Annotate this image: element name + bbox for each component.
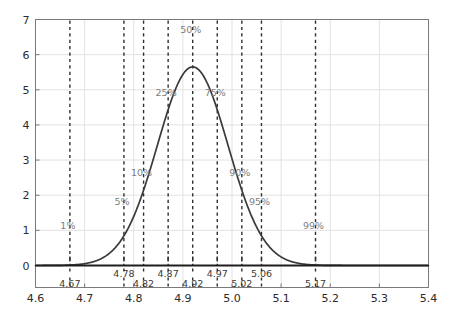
x-tick-label: 4.7 <box>76 292 94 305</box>
percentile-annotation-25pct: 25% <box>156 87 177 98</box>
x-tick-label: 5.3 <box>371 292 389 305</box>
y-tick-label: 7 <box>23 14 30 27</box>
percentile-value-label-90pct: 5.02 <box>231 278 252 289</box>
y-tick-label: 4 <box>23 119 30 132</box>
x-tick-label: 5.0 <box>223 292 241 305</box>
percentile-annotation-5pct: 5% <box>114 196 129 207</box>
y-tick-label: 0 <box>23 260 30 273</box>
percentile-value-label-25pct: 4.87 <box>158 268 179 279</box>
x-tick-label: 5.4 <box>420 292 438 305</box>
y-tick-label: 1 <box>23 224 30 237</box>
chart-background <box>0 0 460 317</box>
y-tick-label: 5 <box>23 84 30 97</box>
percentile-value-label-75pct: 4.97 <box>207 268 228 279</box>
x-tick-label: 5.2 <box>322 292 340 305</box>
percentile-annotation-10pct: 10% <box>131 167 152 178</box>
y-tick-label: 3 <box>23 154 30 167</box>
percentile-value-label-50pct: 4.92 <box>182 278 203 289</box>
percentile-annotation-75pct: 75% <box>205 87 226 98</box>
x-tick-label: 4.9 <box>174 292 192 305</box>
percentile-annotation-99pct: 99% <box>303 220 324 231</box>
chart-container: 1%5%10%25%50%75%90%95%99% 4.674.784.824.… <box>0 0 460 317</box>
percentile-annotation-1pct: 1% <box>60 220 75 231</box>
x-tick-label: 4.8 <box>125 292 143 305</box>
distribution-chart: 1%5%10%25%50%75%90%95%99% 4.674.784.824.… <box>0 0 460 317</box>
percentile-value-label-10pct: 4.82 <box>133 278 154 289</box>
percentile-value-label-95pct: 5.06 <box>251 268 272 279</box>
x-tick-label: 5.1 <box>272 292 290 305</box>
percentile-value-label-1pct: 4.67 <box>59 278 80 289</box>
percentile-value-label-5pct: 4.78 <box>113 268 134 279</box>
y-tick-label: 2 <box>23 189 30 202</box>
y-tick-label: 6 <box>23 49 30 62</box>
x-axis-tick-labels: 4.64.74.84.95.05.15.25.35.4 <box>27 292 438 305</box>
percentile-annotation-90pct: 90% <box>229 167 250 178</box>
percentile-annotation-95pct: 95% <box>249 196 270 207</box>
percentile-annotation-50pct: 50% <box>180 24 201 35</box>
percentile-value-label-99pct: 5.17 <box>305 278 326 289</box>
x-tick-label: 4.6 <box>27 292 45 305</box>
